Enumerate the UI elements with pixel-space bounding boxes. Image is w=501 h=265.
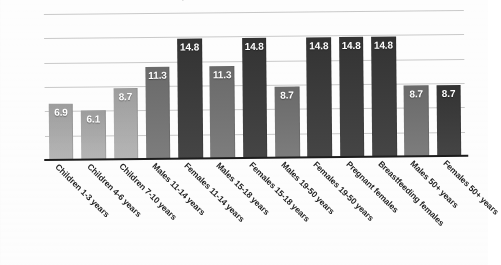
bar-value-label: 14.8 [242,41,267,52]
bar-value-label: 8.7 [404,89,429,100]
bar[interactable]: 8.7 [275,87,300,158]
bar-slot: 8.7 [399,10,433,156]
bar-slot: 14.8 [367,11,401,157]
bar[interactable]: 14.8 [339,37,365,157]
bar-slot: 11.3 [205,12,239,158]
bar-value-label: 6.1 [81,113,106,124]
chart-title-text: Recommended Daily Intake [95,0,217,1]
bar-value-label: 11.3 [145,70,170,81]
bar-slot: 6.9 [44,14,78,160]
bar-value-label: 8.7 [113,91,138,102]
bar[interactable]: 8.7 [436,85,461,156]
x-axis-labels: Children 1-3 yearsChildren 4-6 yearsChil… [45,158,466,262]
x-axis-label: Females 11-14 years [182,161,246,224]
bar[interactable]: 14.8 [177,38,203,158]
bar-slot: 14.8 [335,11,369,157]
x-axis-label: Females 19-50 years [312,159,377,223]
bar-value-label: 14.8 [177,41,202,52]
bar-value-label: 14.8 [371,40,396,51]
bar-slot: 14.8 [238,12,272,158]
bar[interactable]: 8.7 [113,88,138,159]
x-axis-label: Females 50+ years [441,158,501,217]
bar-series: 6.96.18.711.314.811.314.88.714.814.814.8… [44,10,465,160]
bar[interactable]: 11.3 [210,66,235,158]
bar-slot: 14.8 [173,12,207,158]
bar-chart-figure: Recommended Daily Intake 6.96.18.711.314… [0,0,489,265]
bar-value-label: 14.8 [306,40,331,51]
bar-value-label: 14.8 [339,40,364,51]
bar[interactable]: 6.1 [81,110,106,160]
chart-title-clipped: Recommended Daily Intake [95,0,305,3]
x-axis-label: Children 7-10 years [118,161,180,222]
bar-slot: 14.8 [302,11,336,157]
bar-slot: 8.7 [432,10,466,156]
bar[interactable]: 14.8 [242,38,268,158]
bar-slot: 8.7 [108,13,142,159]
bar-value-label: 8.7 [436,88,461,99]
bar[interactable]: 14.8 [371,37,397,157]
bar-slot: 8.7 [270,11,304,157]
bar-slot: 11.3 [141,13,175,159]
bar[interactable]: 14.8 [306,37,332,157]
bar[interactable]: 11.3 [145,67,170,159]
bar[interactable]: 8.7 [404,86,429,157]
bar-value-label: 11.3 [210,69,235,80]
bar-value-label: 6.9 [49,107,74,118]
x-axis-label: Children 4-6 years [85,161,143,218]
bar[interactable]: 6.9 [49,104,74,160]
bar-value-label: 8.7 [275,90,300,101]
bar-slot: 6.1 [76,13,110,159]
x-axis-label: Children 1-3 years [53,162,111,219]
x-axis-label: Females 15-18 years [247,160,312,224]
